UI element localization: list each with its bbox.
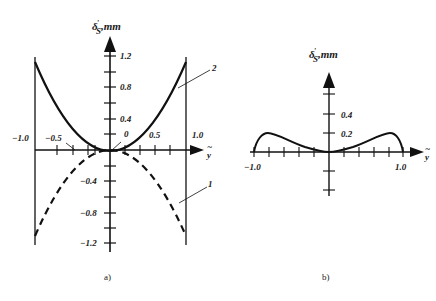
panel-b: 0.4 0.2 −1.0 1.0 δ'S,mm y ~ b) xyxy=(244,47,430,282)
x-tick-label-0: 0 xyxy=(124,129,129,139)
x-tick-label-m0.5: −0.5 xyxy=(45,133,62,143)
y-axis-arrow-icon xyxy=(104,36,116,52)
y-tick-label-0.4: 0.4 xyxy=(120,114,132,124)
x-tick-label-b-1.0: 1.0 xyxy=(395,162,407,172)
y-tick-label-m1.2: −1.2 xyxy=(80,238,97,248)
curve-1-label: 1 xyxy=(208,179,213,189)
x-tick-label-m1.0: −1.0 xyxy=(12,133,29,143)
panel-b-caption: b) xyxy=(322,272,330,282)
figure: 2 1 1.2 0.8 0.4 −0.4 −0.8 −1.2 −1.0 −0.5… xyxy=(0,0,436,301)
tilde-mark: ~ xyxy=(207,142,212,152)
leader-line-m05 xyxy=(66,143,75,150)
y-tick-label-b-0.2: 0.2 xyxy=(341,129,353,139)
x-tick-label-b-m1.0: −1.0 xyxy=(244,162,261,172)
tilde-mark-b: ~ xyxy=(425,144,430,154)
x-axis-b-arrow-icon xyxy=(410,147,424,157)
y-tick-label-0.8: 0.8 xyxy=(120,82,132,92)
x-axis-arrow-icon xyxy=(190,145,204,155)
y-axis-title: δ'S,mm xyxy=(92,19,121,36)
y-tick-label-m0.4: −0.4 xyxy=(80,176,97,186)
y-tick-label-b-0.4: 0.4 xyxy=(341,110,353,120)
leader-line-2 xyxy=(178,70,210,88)
leader-line-1 xyxy=(179,187,207,203)
y-tick-label-m0.8: −0.8 xyxy=(80,208,97,218)
y-tick-label-1.2: 1.2 xyxy=(120,51,132,61)
y-axis-b-arrow-icon xyxy=(323,72,335,88)
x-tick-label-0.5: 0.5 xyxy=(149,130,161,140)
panel-a-caption: a) xyxy=(104,272,111,282)
curve-2-label: 2 xyxy=(211,63,217,73)
panel-a: 2 1 1.2 0.8 0.4 −0.4 −0.8 −1.2 −1.0 −0.5… xyxy=(12,19,217,282)
y-axis-b-title: δ'S,mm xyxy=(309,47,338,64)
x-tick-label-1.0: 1.0 xyxy=(192,130,204,140)
